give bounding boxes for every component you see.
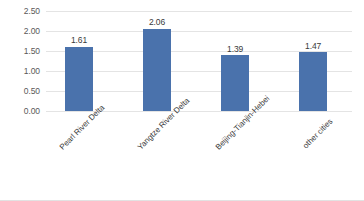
y-axis-tick: 1.00 [24, 66, 40, 76]
y-axis-tick: 0.50 [24, 86, 40, 96]
bar[interactable] [143, 29, 171, 111]
x-axis-category-label: Yangtze River Delta [136, 117, 171, 152]
bars-layer: 1.61 2.06 1.39 1.47 [46, 11, 352, 111]
x-axis-category-label: Pearl River Delta [58, 117, 93, 152]
plot-area: 1.61 2.06 1.39 1.47 [46, 11, 352, 111]
y-axis-tick: 0.00 [24, 106, 40, 116]
bar-slot: 2.06 [143, 11, 171, 111]
bar[interactable] [221, 55, 249, 111]
y-axis-tick: 2.00 [24, 26, 40, 36]
x-axis-category-label: other cities [300, 117, 335, 152]
bar-slot: 1.39 [221, 11, 249, 111]
y-axis-tick: 2.50 [24, 6, 40, 16]
y-axis: 2.50 2.00 1.50 1.00 0.50 0.00 [0, 11, 44, 111]
bar[interactable] [299, 52, 327, 111]
bar[interactable] [65, 47, 93, 111]
bar-slot: 1.47 [299, 11, 327, 111]
bar-value-label: 1.61 [71, 35, 87, 45]
bar-value-label: 1.47 [305, 41, 321, 51]
bar-slot: 1.61 [65, 11, 93, 111]
bar-chart: 2.50 2.00 1.50 1.00 0.50 0.00 1.61 2.06 … [0, 0, 364, 201]
bar-value-label: 2.06 [149, 17, 165, 27]
x-axis: Pearl River Delta Yangtze River Delta Be… [46, 111, 352, 201]
x-axis-category-label: Beijing-Tianjin-Hebei [214, 117, 249, 152]
y-axis-tick: 1.50 [24, 46, 40, 56]
bar-value-label: 1.39 [227, 44, 243, 54]
